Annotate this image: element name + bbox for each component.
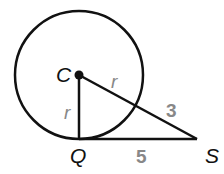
label-tangent-segment: 5: [136, 146, 147, 167]
label-s: S: [205, 144, 219, 167]
label-q: Q: [70, 144, 86, 167]
label-c: C: [56, 63, 72, 86]
label-radius-vertical: r: [64, 102, 71, 123]
label-radius-slant: r: [111, 71, 118, 92]
label-external-segment: 3: [166, 100, 177, 121]
segment-cs: [79, 75, 197, 139]
center-point: [75, 71, 84, 80]
tangent-circle-diagram: C Q S r r 3 5: [0, 0, 224, 174]
